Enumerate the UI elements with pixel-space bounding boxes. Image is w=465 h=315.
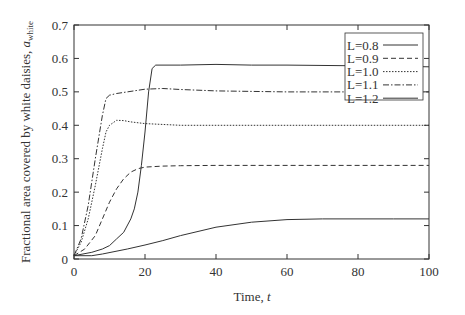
y-tick-label: 0.7 — [52, 18, 69, 33]
y-tick-label: 0.4 — [52, 118, 69, 133]
y-tick-label: 0.1 — [52, 218, 68, 233]
y-tick-label: 0.3 — [52, 151, 68, 166]
legend-label: L=1.2 — [347, 91, 379, 106]
y-tick-label: 0 — [62, 252, 69, 267]
y-axis-label: Fractional area covered by white daisies… — [18, 21, 35, 263]
y-tick-label: 0.5 — [52, 84, 68, 99]
x-axis-label: Time, t — [233, 289, 270, 304]
x-tick-label: 60 — [281, 264, 294, 279]
y-tick-label: 0.2 — [52, 185, 68, 200]
y-tick-label: 0.6 — [52, 51, 69, 66]
line-chart: 02040608010000.10.20.30.40.50.60.7 L=0.8… — [0, 0, 465, 315]
x-tick-label: 80 — [352, 264, 365, 279]
series-line-l-0-9 — [74, 165, 429, 255]
x-tick-label: 40 — [210, 264, 223, 279]
x-tick-label: 100 — [419, 264, 439, 279]
series-line-l-1-0 — [74, 120, 429, 255]
x-tick-label: 20 — [139, 264, 152, 279]
series-line-l-1-1 — [74, 89, 429, 256]
x-tick-label: 0 — [71, 264, 78, 279]
legend: L=0.8L=0.9L=1.0L=1.1L=1.2 — [345, 33, 423, 106]
series-line-l-0-8 — [74, 219, 429, 256]
